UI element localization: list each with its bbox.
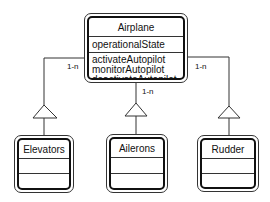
class-attributes (111, 158, 163, 174)
class-name: Rudder (202, 140, 254, 159)
generalization-triangle-icon (125, 103, 147, 116)
class-attributes (19, 159, 69, 174)
class-elevators[interactable]: Elevators (14, 135, 74, 193)
generalization-triangle-icon (33, 105, 57, 118)
class-name: Elevators (19, 140, 69, 159)
class-rudder[interactable]: Rudder (197, 135, 259, 192)
class-attributes: operationalState (89, 37, 183, 53)
class-operations (202, 174, 254, 188)
class-airplane[interactable]: Airplane operationalState activateAutopi… (84, 13, 188, 83)
generalization-triangle-icon (218, 106, 240, 118)
class-attributes (202, 159, 254, 174)
operation: deactivateAutopilot (92, 75, 180, 80)
connector-rudder (187, 57, 229, 106)
multiplicity-label: 1-n (195, 62, 207, 71)
class-operations: activateAutopilot monitorAutopilot deact… (89, 53, 183, 80)
connector-elevators (44, 58, 85, 105)
class-name: Ailerons (111, 139, 163, 158)
class-operations (19, 174, 69, 188)
multiplicity-label: 1-n (67, 62, 79, 71)
class-name: Airplane (89, 18, 183, 37)
class-ailerons[interactable]: Ailerons (106, 134, 168, 193)
class-operations (111, 174, 163, 189)
multiplicity-label: 1-n (142, 87, 154, 96)
attribute: operationalState (92, 39, 180, 50)
